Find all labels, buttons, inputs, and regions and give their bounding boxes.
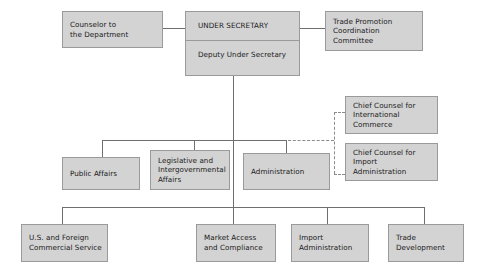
- node-chief-counsel-international-commerce[interactable]: Chief Counsel for International Commerce: [345, 96, 438, 134]
- connector-dashed-stub-international: [334, 112, 345, 113]
- org-chart: Counselor to the Department UNDER SECRET…: [0, 0, 485, 276]
- connector-dashed-vertical: [334, 112, 335, 174]
- node-public-affairs[interactable]: Public Affairs: [62, 157, 140, 190]
- node-legislative-intergovernmental-affairs-label: Legislative and Intergovernmental Affair…: [158, 156, 225, 185]
- node-administration[interactable]: Administration: [243, 153, 330, 190]
- connector-drop-market-access: [233, 207, 234, 224]
- connector-dashed-stub-import: [334, 174, 345, 175]
- node-trade-promotion-coordination-committee[interactable]: Trade Promotion Coordination Committee: [325, 11, 423, 51]
- node-public-affairs-label: Public Affairs: [70, 169, 135, 179]
- connector-drop-commercial-service: [62, 207, 63, 224]
- node-trade-development[interactable]: Trade Development: [388, 224, 464, 262]
- node-administration-label: Administration: [251, 167, 325, 177]
- connector-drop-trade-development: [424, 207, 425, 224]
- node-us-and-foreign-commercial-service[interactable]: U.S. and Foreign Commercial Service: [21, 224, 108, 262]
- node-import-administration[interactable]: Import Administration: [291, 224, 369, 262]
- node-us-and-foreign-commercial-service-label: U.S. and Foreign Commercial Service: [29, 233, 103, 252]
- connector-counselor-to-under-secretary: [163, 28, 185, 29]
- node-counselor-to-department-label: Counselor to the Department: [70, 20, 158, 39]
- node-import-administration-label: Import Administration: [299, 233, 364, 252]
- node-trade-promotion-coordination-committee-label: Trade Promotion Coordination Committee: [333, 17, 418, 46]
- node-chief-counsel-import-administration-label: Chief Counsel for Import Administration: [353, 148, 433, 177]
- node-under-secretary-group[interactable]: UNDER SECRETARY Deputy Under Secretary: [185, 11, 300, 76]
- connector-drop-public-affairs: [102, 140, 103, 157]
- node-legislative-intergovernmental-affairs[interactable]: Legislative and Intergovernmental Affair…: [150, 150, 230, 190]
- connector-dashed-horizontal: [288, 140, 334, 141]
- node-counselor-to-department[interactable]: Counselor to the Department: [62, 11, 163, 48]
- node-market-access-and-compliance[interactable]: Market Access and Compliance: [196, 224, 276, 262]
- connector-drop-administration: [286, 140, 287, 153]
- connector-main-trunk: [233, 76, 234, 207]
- node-under-secretary[interactable]: UNDER SECRETARY: [186, 12, 299, 40]
- node-market-access-and-compliance-label: Market Access and Compliance: [204, 233, 271, 252]
- node-chief-counsel-import-administration[interactable]: Chief Counsel for Import Administration: [345, 143, 438, 181]
- connector-under-secretary-to-trade-promotion: [300, 28, 325, 29]
- node-trade-development-label: Trade Development: [396, 233, 459, 252]
- node-under-secretary-label: UNDER SECRETARY: [198, 21, 268, 31]
- node-deputy-under-secretary-label: Deputy Under Secretary: [198, 50, 286, 60]
- node-deputy-under-secretary[interactable]: Deputy Under Secretary: [186, 40, 299, 69]
- connector-bottom-bus: [62, 207, 424, 208]
- connector-drop-import-administration: [327, 207, 328, 224]
- node-chief-counsel-international-commerce-label: Chief Counsel for International Commerce: [353, 101, 433, 130]
